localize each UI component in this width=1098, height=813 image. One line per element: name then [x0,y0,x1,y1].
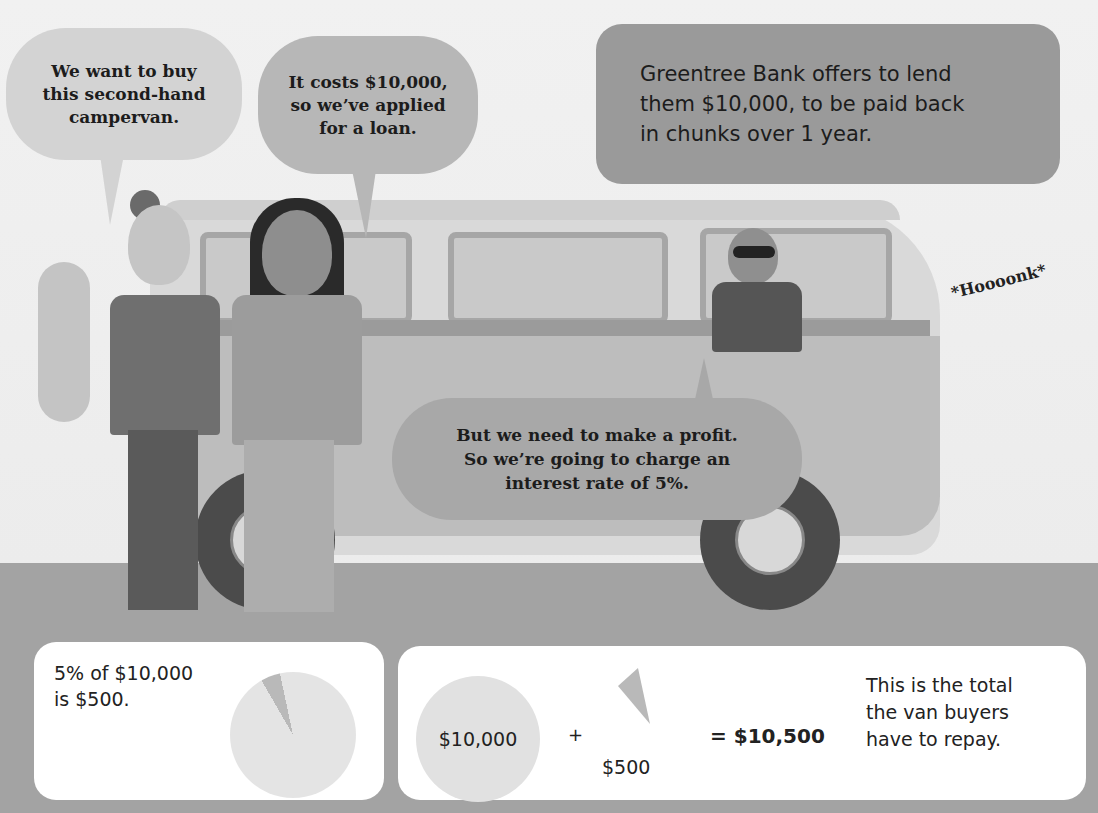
interest-calculation-card: 5% of $10,000 is $500. [34,642,384,800]
total-caption: This is the total the van buyers have to… [866,672,1013,753]
speech-bubble-banker: But we need to make a profit. So we’re g… [392,398,802,520]
interest-amount: $500 [602,756,650,778]
speech-bubble-buyer1: We want to buy this second-hand camperva… [6,28,242,160]
total-repayment-card: $10,000 + $500 = $10,500 This is the tot… [398,646,1086,800]
speech-text-buyer2: It costs $10,000, so we’ve applied for a… [288,71,447,140]
speech-tail-buyer2 [352,170,376,238]
total-amount: = $10,500 [710,724,825,748]
buyer2-head [262,210,332,296]
speech-text-banker: But we need to make a profit. So we’re g… [456,423,738,495]
speech-tail-buyer1 [100,155,124,225]
interest-calculation-text: 5% of $10,000 is $500. [54,660,193,712]
principal-amount: $10,000 [439,728,518,750]
principal-circle-icon: $10,000 [416,676,540,802]
buyer1-shirt [110,295,220,435]
interest-slice-icon [616,668,656,728]
banker-suit [712,282,802,352]
pie-chart-icon [230,672,356,798]
spare-tire [38,262,90,422]
plus-sign: + [568,724,583,745]
illustration-scene: We want to buy this second-hand camperva… [0,0,1098,813]
speech-bubble-buyer2: It costs $10,000, so we’ve applied for a… [258,36,478,174]
speech-text-buyer1: We want to buy this second-hand camperva… [42,60,205,129]
buyer1-head [128,205,190,285]
buyer2-legs [244,440,334,612]
narration-text: Greentree Bank offers to lend them $10,0… [640,59,964,149]
buyer2-shirt [232,295,362,445]
van-window-middle [448,232,668,324]
narration-box: Greentree Bank offers to lend them $10,0… [596,24,1060,184]
sunglasses-icon [733,246,775,258]
buyer1-legs [128,430,198,610]
